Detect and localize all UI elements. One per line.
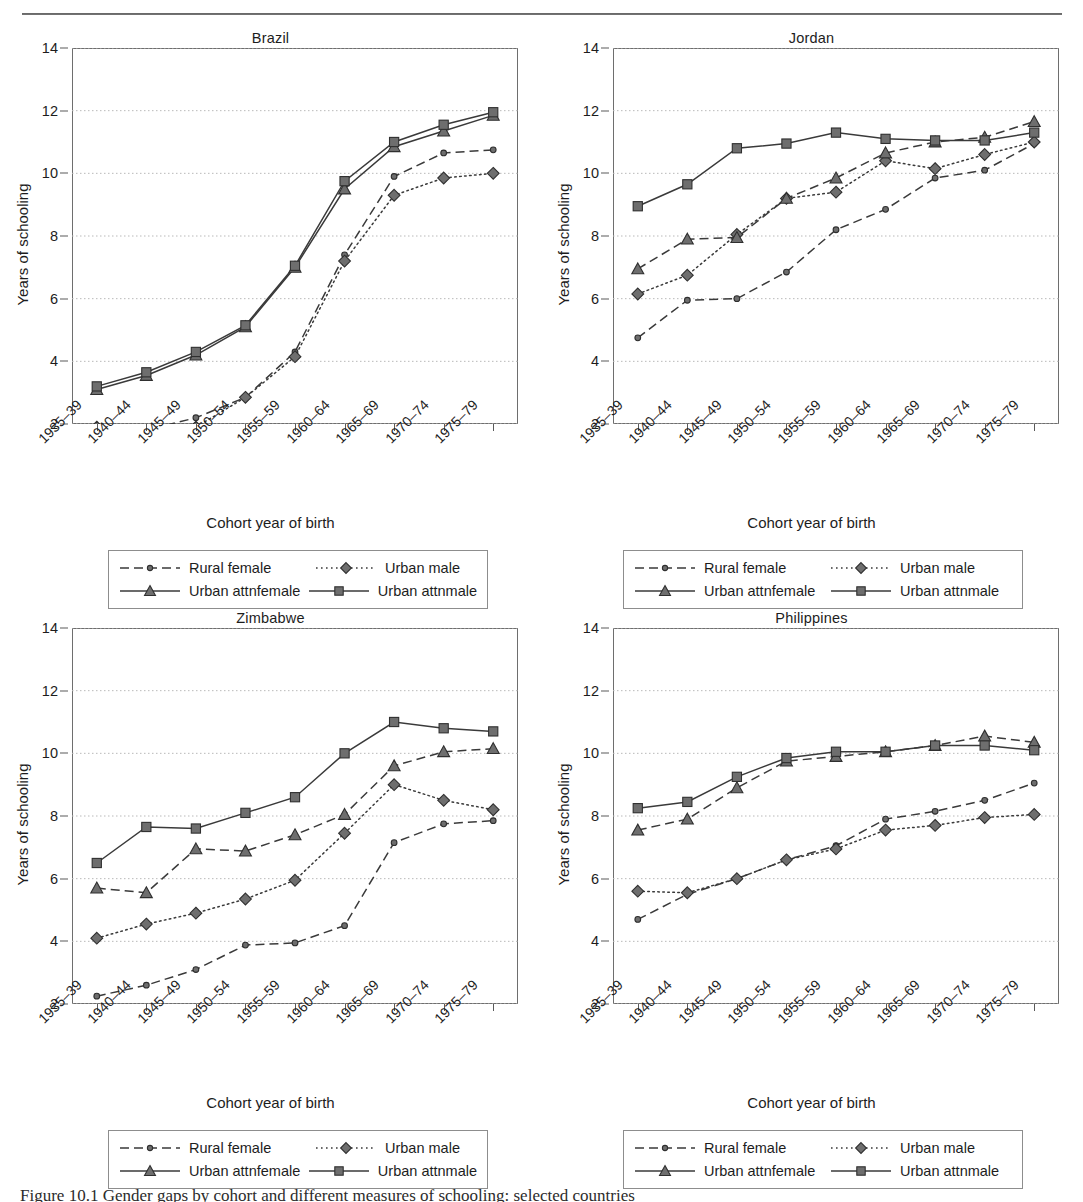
chart-panel-jordan: Jordan 2468101214 Years of schooling 193… <box>541 22 1082 622</box>
y-tick-mark <box>60 878 68 879</box>
x-tick-mark <box>1034 424 1035 431</box>
legend-key-diamond-icon <box>315 1140 377 1156</box>
legend-label: Urban attnfemale <box>189 1163 300 1179</box>
top-divider-rule <box>22 13 1062 15</box>
chart-legend: Rural femaleUrban maleUrban attnfemaleUr… <box>623 550 1023 609</box>
y-tick-mark <box>601 48 609 49</box>
plot-area <box>613 48 1059 424</box>
y-tick-mark <box>60 110 68 111</box>
legend-item[interactable]: Urban male <box>830 1140 975 1156</box>
y-axis: 2468101214 <box>0 628 72 1004</box>
plot-canvas <box>72 628 518 1004</box>
legend-item[interactable]: Urban male <box>315 560 460 576</box>
x-axis-label: Cohort year of birth <box>541 514 1082 531</box>
legend-label: Urban male <box>385 1140 460 1156</box>
figure-page: Brazil 2468101214 Years of schooling 193… <box>0 0 1083 1202</box>
legend-key-circle-icon <box>119 1140 181 1156</box>
figure-caption: Figure 10.1 Gender gaps by cohort and di… <box>20 1186 1060 1202</box>
panel-title: Brazil <box>0 30 541 46</box>
legend-label: Urban attnmale <box>378 1163 477 1179</box>
legend-item[interactable]: Urban male <box>315 1140 460 1156</box>
plot-area <box>613 628 1059 1004</box>
y-axis-label: Years of schooling <box>14 675 31 975</box>
legend-item[interactable]: Urban attnfemale <box>119 583 308 599</box>
y-tick-label: 10 <box>583 165 599 181</box>
legend-label: Urban male <box>900 1140 975 1156</box>
y-tick-label: 4 <box>50 353 58 369</box>
chart-panel-philippines: Philippines 2468101214 Years of schoolin… <box>541 602 1082 1202</box>
legend-item[interactable]: Urban attnmale <box>308 583 477 599</box>
legend-key-square-icon <box>830 1163 892 1179</box>
legend-key-circle-icon <box>634 1140 696 1156</box>
y-tick-mark <box>601 941 609 942</box>
legend-row: Urban attnfemaleUrban attnmale <box>634 579 1012 602</box>
y-tick-label: 4 <box>50 933 58 949</box>
y-tick-label: 6 <box>591 291 599 307</box>
legend-row: Urban attnfemaleUrban attnmale <box>119 579 477 602</box>
y-tick-label: 6 <box>591 871 599 887</box>
legend-item[interactable]: Urban attnmale <box>830 583 999 599</box>
legend-row: Rural femaleUrban male <box>634 1136 1012 1159</box>
plot-area <box>72 48 518 424</box>
legend-item[interactable]: Rural female <box>119 1140 315 1156</box>
legend-key-square-icon <box>830 583 892 599</box>
legend-key-triangle-icon <box>119 583 181 599</box>
y-tick-mark <box>601 236 609 237</box>
legend-row: Rural femaleUrban male <box>634 556 1012 579</box>
panel-title: Zimbabwe <box>0 610 541 626</box>
y-tick-mark <box>601 628 609 629</box>
legend-item[interactable]: Rural female <box>634 1140 830 1156</box>
y-tick-mark <box>60 690 68 691</box>
y-tick-mark <box>60 236 68 237</box>
legend-label: Urban attnfemale <box>189 583 300 599</box>
legend-key-diamond-icon <box>315 560 377 576</box>
legend-key-triangle-icon <box>634 1163 696 1179</box>
legend-label: Rural female <box>704 560 786 576</box>
chart-legend: Rural femaleUrban maleUrban attnfemaleUr… <box>108 1130 488 1189</box>
y-tick-label: 8 <box>591 808 599 824</box>
y-tick-mark <box>60 173 68 174</box>
legend-item[interactable]: Urban attnfemale <box>634 1163 830 1179</box>
y-tick-mark <box>60 753 68 754</box>
y-tick-label: 10 <box>583 745 599 761</box>
x-axis-label: Cohort year of birth <box>541 1094 1082 1111</box>
legend-row: Urban attnfemaleUrban attnmale <box>634 1159 1012 1182</box>
legend-label: Urban attnfemale <box>704 1163 815 1179</box>
y-tick-mark <box>601 173 609 174</box>
legend-key-circle-icon <box>119 560 181 576</box>
y-tick-mark <box>601 298 609 299</box>
y-tick-label: 4 <box>591 933 599 949</box>
legend-item[interactable]: Urban male <box>830 560 975 576</box>
legend-key-square-icon <box>308 583 370 599</box>
y-tick-label: 14 <box>42 620 58 636</box>
x-tick-mark <box>1034 1004 1035 1011</box>
y-tick-label: 4 <box>591 353 599 369</box>
y-tick-mark <box>601 361 609 362</box>
plot-canvas <box>613 628 1059 1004</box>
legend-key-square-icon <box>308 1163 370 1179</box>
legend-item[interactable]: Urban attnfemale <box>634 583 830 599</box>
x-axis: 1935–391940–441945–491950–541955–591960–… <box>72 1004 518 1090</box>
legend-item[interactable]: Urban attnmale <box>308 1163 477 1179</box>
y-tick-label: 14 <box>42 40 58 56</box>
legend-key-circle-icon <box>634 560 696 576</box>
chart-panel-zimbabwe: Zimbabwe 2468101214 Years of schooling 1… <box>0 602 541 1202</box>
legend-item[interactable]: Rural female <box>119 560 315 576</box>
chart-legend: Rural femaleUrban maleUrban attnfemaleUr… <box>623 1130 1023 1189</box>
y-tick-label: 12 <box>583 103 599 119</box>
x-axis: 1935–391940–441945–491950–541955–591960–… <box>72 424 518 510</box>
x-axis-label: Cohort year of birth <box>0 1094 541 1111</box>
y-tick-label: 6 <box>50 871 58 887</box>
legend-key-diamond-icon <box>830 560 892 576</box>
legend-item[interactable]: Rural female <box>634 560 830 576</box>
legend-item[interactable]: Urban attnfemale <box>119 1163 308 1179</box>
y-axis-label: Years of schooling <box>555 675 572 975</box>
y-tick-mark <box>601 110 609 111</box>
x-tick-mark <box>493 1004 494 1011</box>
x-tick-mark <box>493 424 494 431</box>
legend-item[interactable]: Urban attnmale <box>830 1163 999 1179</box>
legend-label: Urban male <box>900 560 975 576</box>
plot-canvas <box>613 48 1059 424</box>
y-tick-mark <box>601 690 609 691</box>
y-tick-mark <box>601 878 609 879</box>
